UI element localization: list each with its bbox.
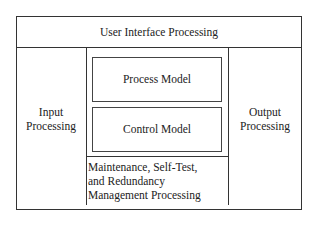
- output-processing-line2: Processing: [229, 119, 301, 133]
- input-processing-label: Input Processing: [16, 105, 86, 133]
- maintenance-processing-label: Maintenance, Self-Test, and Redundancy M…: [88, 160, 228, 202]
- maintenance-line2: and Redundancy: [88, 174, 228, 188]
- user-interface-processing-label: User Interface Processing: [16, 25, 302, 39]
- control-model-label: Control Model: [92, 122, 222, 136]
- header-divider: [16, 47, 302, 48]
- output-processing-label: Output Processing: [229, 105, 301, 133]
- input-processing-line1: Input: [16, 105, 86, 119]
- output-processing-line1: Output: [229, 105, 301, 119]
- input-processing-line2: Processing: [16, 119, 86, 133]
- maintenance-line3: Management Processing: [88, 188, 228, 202]
- process-model-label: Process Model: [92, 72, 222, 86]
- left-column-divider: [86, 47, 87, 205]
- maintenance-divider: [86, 156, 228, 157]
- maintenance-line1: Maintenance, Self-Test,: [88, 160, 228, 174]
